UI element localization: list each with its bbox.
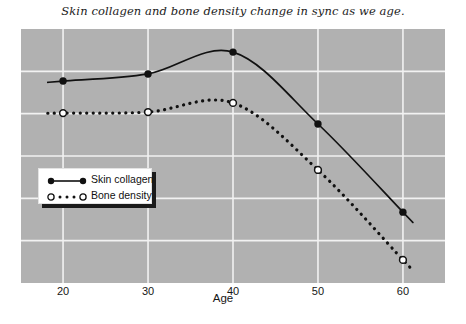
legend-item-bone-density: Bone density [45, 188, 152, 202]
chart-canvas [21, 29, 445, 283]
legend-key-dotted-open-circle [45, 189, 91, 201]
chart-legend: Skin collagen Bone density [38, 168, 152, 204]
data-point-0-20 [59, 77, 66, 84]
chart-page: Skin collagen and bone density change in… [0, 0, 466, 324]
legend-item-skin-collagen: Skin collagen [45, 172, 153, 186]
data-point-1-50 [315, 167, 322, 174]
data-point-0-30 [144, 70, 151, 77]
data-point-1-30 [145, 109, 152, 116]
data-point-1-60 [400, 256, 407, 263]
data-point-0-50 [314, 120, 321, 127]
legend-label-skin-collagen: Skin collagen [91, 173, 153, 185]
plot-area [21, 29, 445, 283]
x-axis-title-text: Age [213, 292, 233, 304]
data-point-1-40 [230, 100, 237, 107]
x-axis-title: Age [0, 292, 466, 304]
chart-title: Skin collagen and bone density change in… [0, 4, 466, 18]
data-point-0-60 [399, 208, 406, 215]
data-point-0-40 [229, 48, 236, 55]
data-point-1-20 [60, 110, 67, 117]
legend-key-solid-filled-circle [45, 173, 91, 185]
legend-label-bone-density: Bone density [91, 189, 152, 201]
